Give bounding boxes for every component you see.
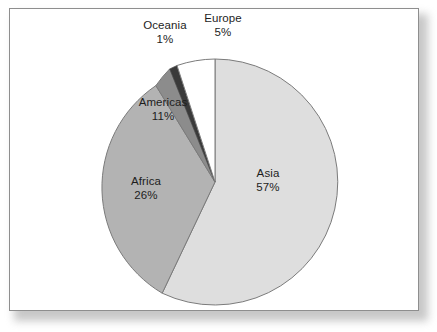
slice-label-asia-name: Asia <box>233 166 303 180</box>
pie-svg <box>10 9 420 312</box>
slice-label-europe: Europe 5% <box>187 11 259 39</box>
slice-label-europe-value: 5% <box>187 25 259 39</box>
slice-label-americas-name: Americas <box>123 95 203 109</box>
slice-label-africa-value: 26% <box>111 188 181 202</box>
slice-label-americas: Americas 11% <box>123 95 203 123</box>
slice-label-americas-value: 11% <box>123 109 203 123</box>
plot-area: Asia 57% Africa 26% Americas 11% Oceania… <box>10 9 418 310</box>
slice-label-europe-name: Europe <box>187 11 259 25</box>
slice-label-africa: Africa 26% <box>111 174 181 202</box>
slice-label-asia-value: 57% <box>233 180 303 194</box>
slice-label-africa-name: Africa <box>111 174 181 188</box>
pie-chart-screenshot: Asia 57% Africa 26% Americas 11% Oceania… <box>0 0 437 332</box>
slice-label-asia: Asia 57% <box>233 166 303 194</box>
chart-frame: Asia 57% Africa 26% Americas 11% Oceania… <box>9 8 419 311</box>
